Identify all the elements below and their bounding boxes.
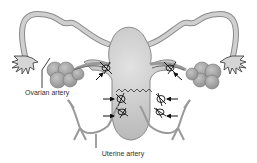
arrow-upper-left bbox=[96, 73, 103, 80]
ovarian-artery-label: Ovarian artery bbox=[25, 89, 65, 97]
uterus bbox=[84, 27, 176, 140]
uterine-artery-label: Uterine artery bbox=[93, 150, 153, 158]
right-ovary bbox=[186, 62, 221, 89]
arrow-upper-right bbox=[174, 73, 182, 80]
uterus-diagram bbox=[0, 0, 257, 163]
left-ovary bbox=[47, 62, 84, 88]
